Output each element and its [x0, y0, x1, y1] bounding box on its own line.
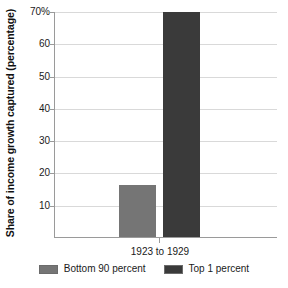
bar-chart: Share of income growth captured (percent…: [0, 0, 288, 288]
y-axis-tick-label-70: 70%: [6, 7, 50, 17]
y-axis-tick-label-30: 30: [6, 136, 50, 146]
legend: Bottom 90 percent Top 1 percent: [0, 264, 288, 274]
y-axis-tick-label-60: 60: [6, 39, 50, 49]
legend-label-top-1-percent: Top 1 percent: [189, 264, 250, 274]
legend-swatch-icon: [39, 265, 58, 274]
x-axis-tick-label-1923-to-1929: 1923 to 1929: [100, 246, 220, 257]
x-axis-tick-mark: [159, 238, 160, 243]
bar-top-1-percent[interactable]: [163, 12, 200, 237]
y-axis-tick-label-40: 40: [6, 104, 50, 114]
y-axis-tick-label-10: 10: [6, 201, 50, 211]
plot-area: [54, 12, 277, 238]
legend-label-bottom-90-percent: Bottom 90 percent: [64, 264, 146, 274]
legend-item-bottom-90-percent[interactable]: Bottom 90 percent: [39, 264, 146, 274]
legend-swatch-icon: [164, 265, 183, 274]
bar-bottom-90-percent[interactable]: [119, 185, 156, 237]
y-axis-tick-label-50: 50: [6, 72, 50, 82]
legend-item-top-1-percent[interactable]: Top 1 percent: [164, 264, 250, 274]
y-axis-tick-label-20: 20: [6, 168, 50, 178]
